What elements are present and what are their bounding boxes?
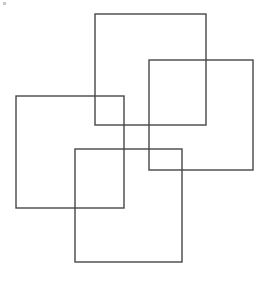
scan-speck-artifact xyxy=(3,2,6,5)
figure-canvas: Four overlapping squares pinwheel xyxy=(0,0,271,283)
square-left xyxy=(16,96,124,208)
square-top xyxy=(95,14,206,125)
square-right xyxy=(149,60,253,170)
overlapping-squares-figure: Four overlapping squares pinwheel xyxy=(0,0,271,283)
square-bottom xyxy=(75,149,182,262)
